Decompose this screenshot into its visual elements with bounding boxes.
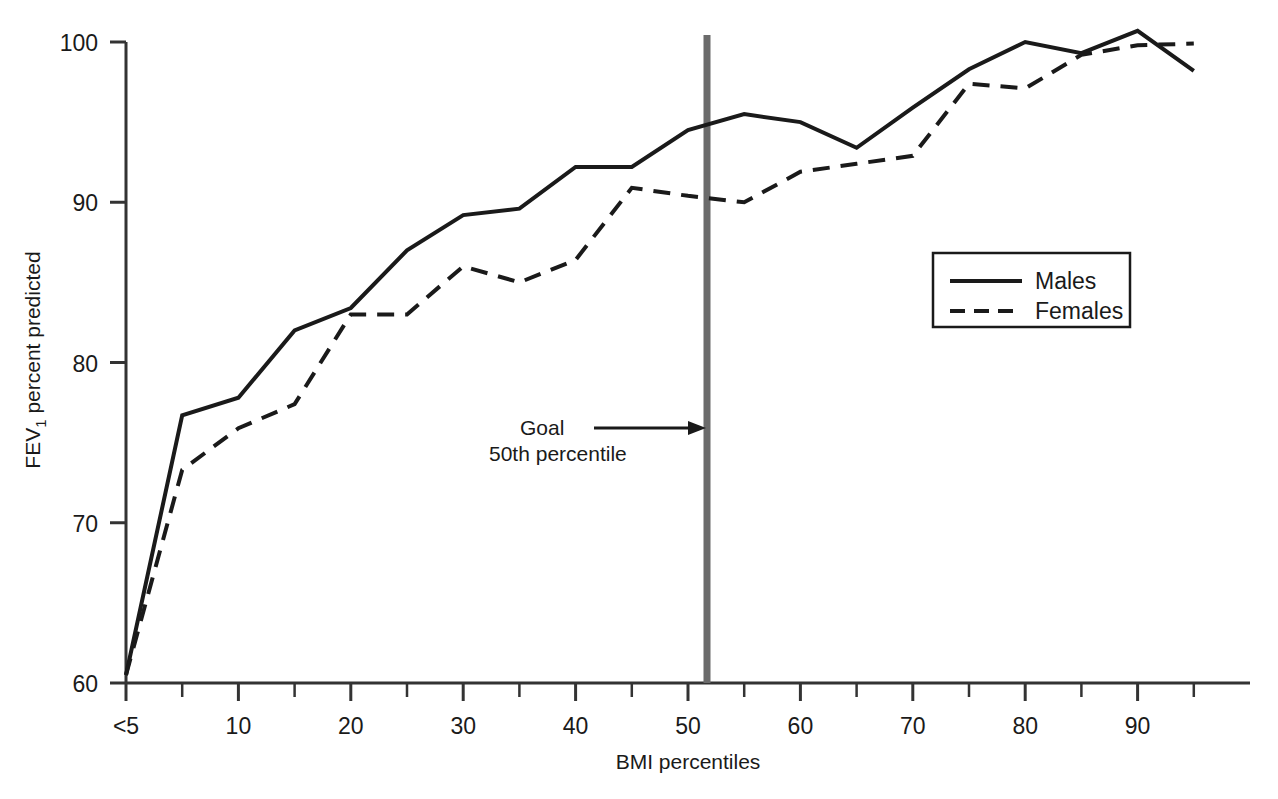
x-tick-label: 90: [1125, 713, 1151, 739]
series-line-females: [126, 44, 1194, 675]
x-tick-label: 40: [563, 713, 589, 739]
goal-annotation: Goal 50th percentile: [489, 416, 706, 465]
goal-annotation-line1: Goal: [520, 416, 564, 439]
y-axis-title: FEV1 percent predicted: [21, 251, 49, 468]
data-series-layer: [126, 31, 1194, 675]
x-tick-label: 80: [1012, 713, 1038, 739]
y-axis-ticks: [110, 42, 126, 683]
goal-annotation-line2: 50th percentile: [489, 442, 627, 465]
x-tick-label: <5: [113, 713, 139, 739]
x-axis-title: BMI percentiles: [616, 750, 761, 773]
y-tick-label: 100: [60, 30, 98, 56]
y-tick-label: 90: [72, 190, 98, 216]
y-axis-title-suffix: percent predicted: [21, 251, 44, 419]
series-line-males: [126, 31, 1194, 675]
y-axis-title-subscript: 1: [32, 419, 49, 427]
fev1-bmi-percentile-line-chart: 60708090100 <5102030405060708090 Goal 50…: [0, 0, 1278, 799]
y-tick-label: 70: [72, 511, 98, 537]
legend-label-females: Females: [1035, 298, 1123, 324]
legend-label-males: Males: [1035, 268, 1096, 294]
x-tick-label: 70: [900, 713, 926, 739]
figure-panel: 60708090100 <5102030405060708090 Goal 50…: [0, 0, 1278, 799]
y-tick-label: 60: [72, 671, 98, 697]
x-tick-label: 50: [675, 713, 701, 739]
svg-text:FEV1 percent predicted: FEV1 percent predicted: [21, 251, 49, 468]
y-tick-label: 80: [72, 351, 98, 377]
x-tick-label: 30: [450, 713, 476, 739]
goal-arrow-head: [688, 421, 706, 435]
x-tick-label: 20: [338, 713, 364, 739]
y-axis-title-prefix: FEV: [21, 428, 44, 469]
x-tick-label: 60: [788, 713, 814, 739]
x-axis-tick-labels: <5102030405060708090: [113, 713, 1151, 739]
axis-lines: [126, 42, 1250, 683]
legend[interactable]: Males Females: [933, 253, 1130, 327]
x-tick-label: 10: [226, 713, 252, 739]
x-axis-ticks: [126, 683, 1194, 701]
y-axis-tick-labels: 60708090100: [60, 30, 98, 697]
